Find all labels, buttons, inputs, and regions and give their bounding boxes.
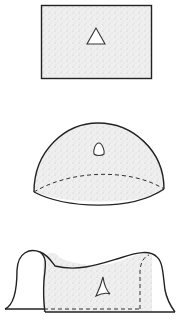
geometry-diagram: [0, 0, 177, 328]
saddle-front-left-edge: [40, 252, 45, 312]
saddle-fill: [43, 253, 152, 312]
spherical-panel: [34, 123, 164, 205]
hemisphere-fill: [34, 123, 164, 202]
saddle-left-curl: [5, 251, 40, 309]
diagram-svg: [0, 0, 177, 328]
hyperbolic-panel: [5, 251, 175, 312]
flat-plane-panel: [42, 6, 152, 79]
